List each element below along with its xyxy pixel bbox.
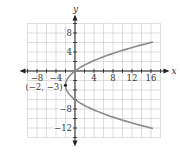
parabola-curve bbox=[66, 42, 153, 128]
x-tick-label: 16 bbox=[146, 73, 157, 83]
vertex-point bbox=[64, 84, 67, 87]
y-tick-label: 4 bbox=[67, 47, 72, 57]
y-tick-label: 8 bbox=[67, 28, 72, 38]
x-axis-label: x bbox=[172, 66, 177, 76]
y-tick-label: −12 bbox=[54, 123, 72, 133]
y-axis-label: y bbox=[72, 4, 79, 14]
x-tick-label: 4 bbox=[91, 73, 96, 83]
x-tick-label: 12 bbox=[127, 73, 138, 83]
y-tick-label: −8 bbox=[59, 104, 72, 114]
vertex-label: (−2, −3) bbox=[25, 82, 62, 92]
x-tick-label: 8 bbox=[110, 73, 115, 83]
parabola-graph: −8−448121684−8−12 (−2, −3) x y bbox=[0, 0, 180, 152]
